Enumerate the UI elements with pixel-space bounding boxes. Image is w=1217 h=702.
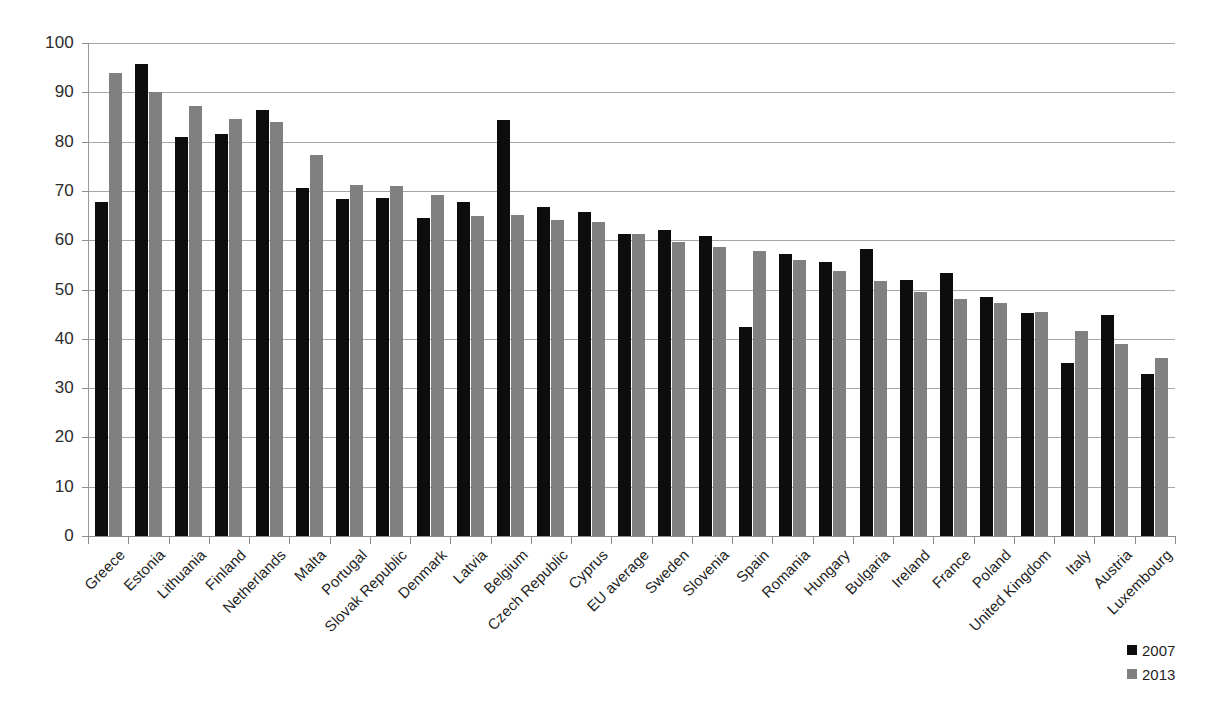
y-axis-tick <box>82 191 89 192</box>
bar-group <box>376 43 403 536</box>
bar-group <box>175 43 202 536</box>
y-axis-tick-label: 100 <box>45 33 74 53</box>
bar-group <box>658 43 685 536</box>
x-axis-tick <box>692 537 693 544</box>
legend-swatch-icon <box>1127 645 1137 655</box>
bar-2013 <box>270 122 283 536</box>
bar-2007 <box>819 262 832 536</box>
bar-group <box>699 43 726 536</box>
bar-2013 <box>310 155 323 536</box>
y-axis-tick <box>82 240 89 241</box>
bar-group <box>417 43 444 536</box>
y-axis-tick <box>82 339 89 340</box>
y-axis-tick-label: 0 <box>64 526 74 546</box>
bar-group <box>1141 43 1168 536</box>
bar-2013 <box>350 185 363 537</box>
x-axis-tick <box>611 537 612 544</box>
bar-2007 <box>497 120 510 536</box>
bar-2013 <box>189 106 202 536</box>
x-axis-tick <box>209 537 210 544</box>
y-axis-tick-label: 10 <box>55 477 74 497</box>
bar-2013 <box>551 220 564 536</box>
bar-2007 <box>699 236 712 536</box>
x-axis-tick <box>1175 537 1176 544</box>
x-axis-tick <box>853 537 854 544</box>
bar-2007 <box>618 234 631 536</box>
bar-2013 <box>753 251 766 536</box>
x-axis-tick <box>249 537 250 544</box>
bar-2013 <box>954 299 967 536</box>
legend-item: 2007 <box>1127 638 1175 662</box>
x-axis-tick <box>289 537 290 544</box>
y-axis-tick <box>82 92 89 93</box>
bar-group <box>1061 43 1088 536</box>
legend-label: 2007 <box>1142 643 1175 658</box>
legend-swatch-icon <box>1127 669 1137 679</box>
x-axis-tick <box>571 537 572 544</box>
y-axis-tick-label: 80 <box>55 132 74 152</box>
x-axis-tick <box>1014 537 1015 544</box>
x-axis-tick <box>652 537 653 544</box>
bar-2007 <box>578 212 591 536</box>
plot-area <box>88 43 1175 536</box>
bar-2007 <box>860 249 873 536</box>
bar-group <box>618 43 645 536</box>
bar-group <box>256 43 283 536</box>
y-axis-tick <box>82 43 89 44</box>
bar-2013 <box>431 195 444 536</box>
bar-2013 <box>1115 344 1128 536</box>
bar-2013 <box>793 260 806 536</box>
bar-group <box>779 43 806 536</box>
bar-2013 <box>149 92 162 536</box>
bar-2013 <box>632 234 645 536</box>
bar-2007 <box>779 254 792 536</box>
bar-group <box>215 43 242 536</box>
legend-label: 2013 <box>1142 667 1175 682</box>
bar-2007 <box>940 273 953 536</box>
bar-group <box>296 43 323 536</box>
bar-2007 <box>457 202 470 536</box>
x-axis-tick <box>450 537 451 544</box>
y-axis-tick <box>82 487 89 488</box>
y-axis-tick <box>82 142 89 143</box>
bar-group <box>578 43 605 536</box>
y-axis-tick-label: 90 <box>55 82 74 102</box>
bar-2013 <box>833 271 846 536</box>
bar-group <box>980 43 1007 536</box>
y-axis-tick <box>82 290 89 291</box>
legend-item: 2013 <box>1127 662 1175 686</box>
bar-2007 <box>417 218 430 536</box>
bar-2007 <box>256 110 269 536</box>
bar-group <box>860 43 887 536</box>
bar-2007 <box>1021 313 1034 536</box>
bar-2007 <box>980 297 993 536</box>
y-axis-tick-label: 20 <box>55 427 74 447</box>
x-axis-tick <box>491 537 492 544</box>
x-axis-tick <box>128 537 129 544</box>
x-axis-tick <box>1094 537 1095 544</box>
bar-2007 <box>1061 363 1074 536</box>
y-axis-tick-label: 30 <box>55 378 74 398</box>
bar-2007 <box>336 199 349 536</box>
bar-2013 <box>471 216 484 536</box>
bar-2013 <box>713 247 726 536</box>
x-axis-tick <box>813 537 814 544</box>
bar-2013 <box>994 303 1007 536</box>
bar-2013 <box>592 222 605 536</box>
bar-2013 <box>874 281 887 536</box>
bar-group <box>1101 43 1128 536</box>
bar-group <box>457 43 484 536</box>
bar-group <box>497 43 524 536</box>
x-axis-tick <box>1135 537 1136 544</box>
bar-2007 <box>1141 374 1154 536</box>
y-axis-tick-label: 60 <box>55 230 74 250</box>
bar-2013 <box>1075 331 1088 536</box>
bar-2007 <box>739 327 752 536</box>
bar-2007 <box>95 202 108 536</box>
x-axis-tick <box>330 537 331 544</box>
bar-2007 <box>658 230 671 536</box>
bar-2013 <box>914 292 927 536</box>
bar-2007 <box>175 137 188 536</box>
bar-2013 <box>109 73 122 536</box>
bar-2007 <box>135 64 148 536</box>
